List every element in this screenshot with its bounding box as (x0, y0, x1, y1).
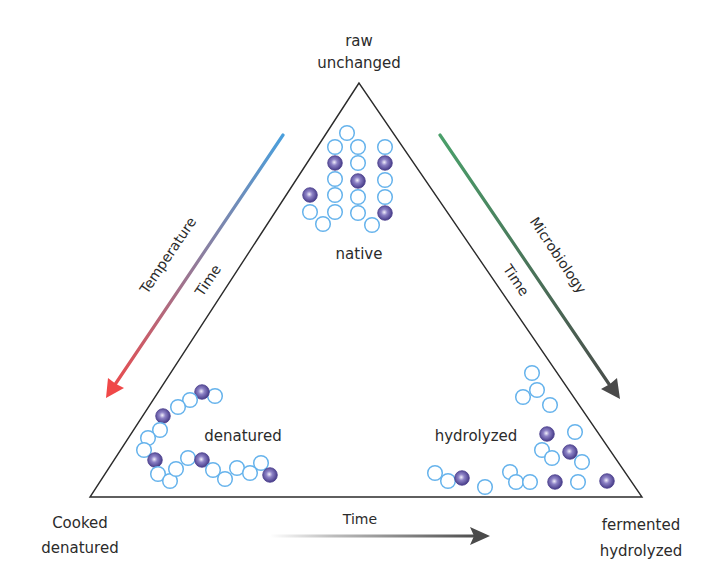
label-microbiology: Microbiology (527, 214, 590, 296)
state-label-hydrolyzed: hydrolyzed (435, 427, 518, 445)
amino-acid-bead (543, 398, 558, 413)
amino-acid-bead (568, 425, 583, 440)
vertex-top-line2: unchanged (317, 54, 401, 72)
state-label-native: native (336, 245, 383, 263)
microbiology-arrow (440, 135, 620, 399)
amino-acid-bead (378, 190, 393, 205)
vertex-bottom-left-line2: denatured (41, 539, 118, 557)
amino-acid-bead (328, 188, 343, 203)
amino-acid-bead (365, 218, 380, 233)
amino-acid-bead (351, 140, 366, 155)
amino-acid-bead (328, 172, 343, 187)
amino-acid-bead (509, 475, 524, 490)
vertex-bottom-left-line1: Cooked (52, 514, 108, 532)
amino-acid-bead-dark (600, 474, 615, 489)
amino-acid-bead (351, 206, 366, 221)
amino-acid-bead-dark (263, 468, 278, 483)
amino-acid-bead (516, 390, 531, 405)
vertex-bottom-right-line1: fermented (602, 516, 680, 534)
native-protein-chain (303, 126, 393, 233)
temperature-arrow (106, 135, 283, 398)
amino-acid-bead (316, 217, 331, 232)
amino-acid-bead (378, 173, 393, 188)
amino-acid-bead (378, 140, 393, 155)
time-arrow-bottom (270, 527, 490, 545)
amino-acid-bead (523, 475, 538, 490)
amino-acid-bead (525, 366, 540, 381)
amino-acid-bead (208, 389, 223, 404)
amino-acid-bead-dark (455, 471, 470, 486)
amino-acid-bead (441, 474, 456, 489)
arrowhead-left-icon (106, 378, 124, 398)
label-temperature: Temperature (136, 214, 199, 297)
amino-acid-bead (171, 400, 186, 415)
amino-acid-bead (428, 466, 443, 481)
amino-acid-bead (545, 451, 560, 466)
amino-acid-bead-dark (148, 453, 163, 468)
label-time-left: Time (191, 262, 224, 300)
amino-acid-bead-dark (156, 409, 171, 424)
amino-acid-bead (169, 462, 184, 477)
amino-acid-bead-dark (548, 475, 563, 490)
amino-acid-bead-dark (378, 156, 393, 171)
amino-acid-bead-dark (351, 174, 366, 189)
state-label-denatured: denatured (204, 427, 281, 445)
amino-acid-bead (351, 156, 366, 171)
amino-acid-bead (328, 140, 343, 155)
amino-acid-bead-dark (303, 188, 318, 203)
amino-acid-bead (351, 190, 366, 205)
vertex-bottom-right-line2: hydrolyzed (600, 542, 683, 560)
amino-acid-bead (478, 480, 493, 495)
amino-acid-bead (254, 456, 269, 471)
vertex-top-line1: raw (345, 32, 373, 50)
protein-state-triangle-diagram: raw unchanged Cooked denatured fermented… (0, 0, 716, 588)
amino-acid-bead (181, 451, 196, 466)
amino-acid-bead (575, 455, 590, 470)
amino-acid-bead (530, 383, 545, 398)
amino-acid-bead (340, 126, 355, 141)
amino-acid-bead (328, 205, 343, 220)
amino-acid-bead (218, 472, 233, 487)
arrowhead-right-icon (601, 378, 620, 399)
amino-acid-bead-dark (540, 427, 555, 442)
label-time-bottom: Time (342, 511, 377, 527)
amino-acid-bead (303, 205, 318, 220)
amino-acid-bead (571, 475, 586, 490)
amino-acid-bead-dark (378, 206, 393, 221)
amino-acid-bead-dark (563, 445, 578, 460)
triangle-outline (90, 83, 642, 497)
amino-acid-bead-dark (328, 156, 343, 171)
